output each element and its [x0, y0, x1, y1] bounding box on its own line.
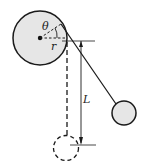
radius-label: r	[51, 40, 57, 53]
bob-rest-position	[54, 136, 79, 161]
pendulum-diagram: θ r L	[0, 0, 144, 168]
arrowhead-up-icon	[79, 41, 83, 47]
length-label: L	[82, 93, 90, 106]
arrowhead-down-icon	[79, 137, 83, 145]
theta-label: θ	[42, 20, 49, 33]
pendulum-bob	[112, 101, 136, 125]
pendulum-string	[61, 24, 116, 104]
diagram-canvas: θ r L	[0, 0, 144, 168]
